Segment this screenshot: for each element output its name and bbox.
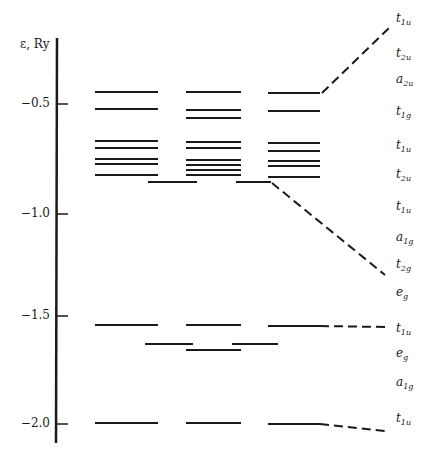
dashed-connector [322, 27, 390, 93]
energy-levels [95, 92, 320, 424]
energy-level-diagram [0, 0, 434, 463]
y-axis-line [56, 38, 57, 443]
dashed-connector [272, 183, 385, 275]
dashed-connectors [272, 27, 390, 431]
y-axis-ticks [57, 104, 68, 424]
dashed-connector [320, 424, 385, 431]
dashed-connector [320, 326, 385, 327]
